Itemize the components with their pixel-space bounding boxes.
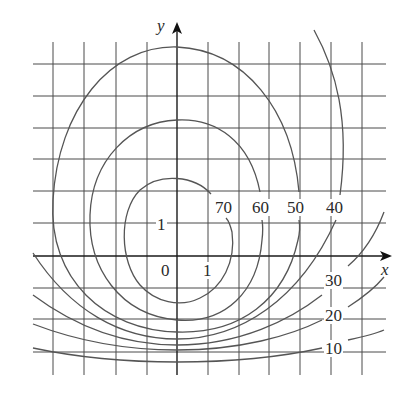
contour-plot	[0, 0, 412, 398]
contour-50	[53, 47, 300, 332]
contour-20-right	[348, 277, 384, 307]
contour-label-60: 60	[251, 199, 270, 216]
contour-40-bottom	[33, 220, 336, 339]
contour-label-30: 30	[324, 272, 343, 289]
contour-70	[124, 178, 232, 303]
y-axis-label: y	[156, 17, 166, 34]
contour-label-20: 20	[324, 307, 343, 324]
contour-10-right	[348, 330, 384, 340]
contour-30-right	[348, 212, 384, 266]
contour-40-top	[314, 30, 343, 195]
origin-tick: 0	[160, 262, 171, 279]
x-tick-1: 1	[202, 262, 213, 279]
contour-label-40: 40	[325, 199, 344, 216]
x-axis-label: x	[380, 261, 390, 278]
contour-label-70: 70	[214, 199, 233, 216]
contour-label-50: 50	[286, 199, 305, 216]
contour-label-10: 10	[324, 340, 343, 357]
y-tick-1: 1	[156, 216, 167, 233]
